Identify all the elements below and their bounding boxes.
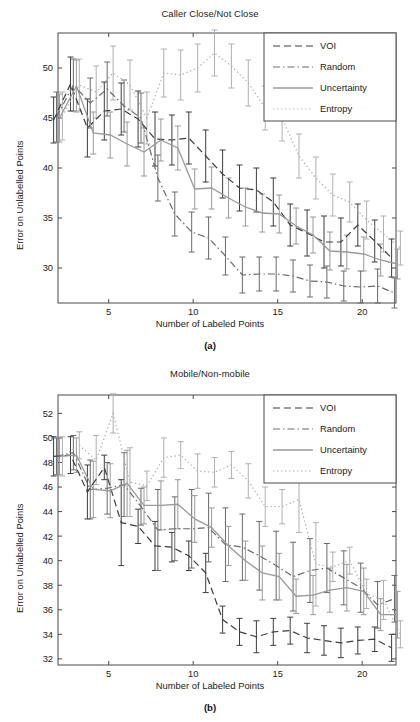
- panel-a: Caller Close/Not Close Error on Unlabell…: [0, 0, 420, 360]
- x-tick-label: 5: [106, 307, 111, 317]
- legend-label-entropy: Entropy: [320, 466, 352, 476]
- y-tick-label: 32: [43, 654, 53, 664]
- y-tick-label: 40: [43, 556, 53, 566]
- y-tick-label: 38: [43, 581, 53, 591]
- chart-legend: VOIRandomUncertaintyEntropy: [264, 395, 396, 483]
- y-tick-label: 52: [43, 409, 53, 419]
- chart-legend: VOIRandomUncertaintyEntropy: [264, 33, 396, 121]
- panel-b: Mobile/Non-mobile Error on Unlabelled Po…: [0, 358, 420, 722]
- series-line-voi: [54, 455, 392, 648]
- legend-label-random: Random: [320, 62, 355, 72]
- x-tick-label: 20: [357, 307, 367, 317]
- y-tick-label: 40: [43, 163, 53, 173]
- x-tick-label: 10: [188, 307, 198, 317]
- figure-two-panel-line-charts: Caller Close/Not Close Error on Unlabell…: [0, 0, 420, 722]
- x-tick-label: 15: [273, 669, 283, 679]
- x-tick-label: 20: [357, 669, 367, 679]
- y-tick-label: 50: [43, 433, 53, 443]
- y-tick-label: 42: [43, 532, 53, 542]
- y-tick-label: 45: [43, 113, 53, 123]
- legend-label-random: Random: [320, 424, 355, 434]
- x-tick-label: 15: [273, 307, 283, 317]
- chart-b-plot: 51015203234363840424446485052VOIRandomUn…: [0, 358, 420, 722]
- y-tick-label: 48: [43, 458, 53, 468]
- y-tick-label: 34: [43, 630, 53, 640]
- x-tick-label: 10: [188, 669, 198, 679]
- y-tick-label: 46: [43, 482, 53, 492]
- legend-label-uncertainty: Uncertainty: [320, 445, 367, 455]
- x-tick-label: 5: [106, 669, 111, 679]
- y-tick-label: 36: [43, 605, 53, 615]
- y-tick-label: 44: [43, 507, 53, 517]
- chart-a-plot: 51015203035404550VOIRandomUncertaintyEnt…: [0, 0, 420, 360]
- y-tick-label: 35: [43, 213, 53, 223]
- legend-label-voi: VOI: [320, 403, 336, 413]
- y-tick-label: 50: [43, 63, 53, 73]
- legend-label-voi: VOI: [320, 41, 336, 51]
- legend-label-entropy: Entropy: [320, 104, 352, 114]
- legend-label-uncertainty: Uncertainty: [320, 83, 367, 93]
- y-tick-label: 30: [43, 263, 53, 273]
